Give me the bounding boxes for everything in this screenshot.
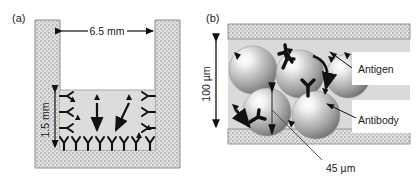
dim-width-label: 6.5 mm: [89, 25, 124, 37]
panel-a: (a) 6.5 mm 1.5 mm: [12, 12, 180, 168]
panel-b-label: (b): [206, 12, 219, 24]
bead: [243, 88, 291, 136]
antibody-label: Antibody: [358, 114, 400, 126]
panel-a-label: (a): [12, 12, 25, 24]
dim-height-label: 100 µm: [200, 66, 212, 101]
dim-depth-label: 1.5 mm: [39, 102, 51, 137]
figure-svg: (a) 6.5 mm 1.5 mm: [0, 0, 416, 185]
antigen-label: Antigen: [358, 63, 394, 75]
figure-root: (a) 6.5 mm 1.5 mm: [0, 0, 416, 185]
bead: [292, 91, 340, 139]
channel-wall-top: [228, 24, 410, 39]
bead-diameter-label: 45 µm: [326, 162, 356, 174]
